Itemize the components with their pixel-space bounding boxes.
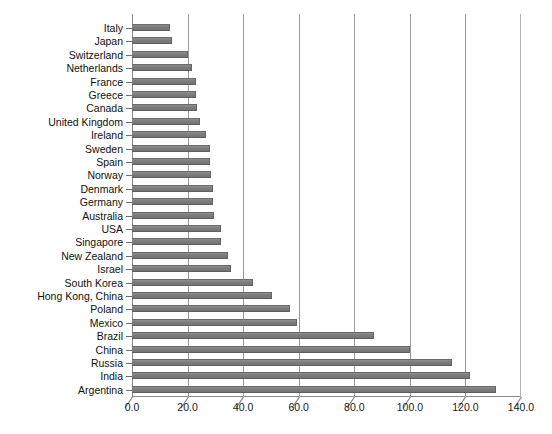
bar <box>132 346 410 353</box>
x-axis-label: 140.0 <box>491 401 551 413</box>
bar-row: Spain <box>0 156 552 169</box>
category-label: Japan <box>94 35 123 48</box>
bar-chart: ItalyJapanSwitzerlandNetherlandsFranceGr… <box>0 0 552 434</box>
x-axis-label: 20.0 <box>158 401 218 413</box>
bar-row: Japan <box>0 35 552 48</box>
bar-row: Russia <box>0 357 552 370</box>
category-label: France <box>90 76 123 89</box>
bar-row: Italy <box>0 22 552 35</box>
bar <box>132 158 210 165</box>
bar-row: Greece <box>0 89 552 102</box>
category-label: Sweden <box>85 143 123 156</box>
bar-row: Israel <box>0 263 552 276</box>
category-label: United Kingdom <box>48 116 123 129</box>
category-label: Poland <box>90 303 123 316</box>
category-label: Norway <box>87 169 123 182</box>
bar <box>132 104 197 111</box>
bar <box>132 305 290 312</box>
bar-row: China <box>0 344 552 357</box>
bar-row: Germany <box>0 196 552 209</box>
bar <box>132 372 470 379</box>
category-label: New Zealand <box>61 250 123 263</box>
x-axis-label: 100.0 <box>380 401 440 413</box>
x-axis-label: 40.0 <box>213 401 273 413</box>
bar-row: Argentina <box>0 384 552 397</box>
bar-row: New Zealand <box>0 250 552 263</box>
category-label: China <box>96 344 123 357</box>
category-label: Canada <box>86 102 123 115</box>
bar-row: Sweden <box>0 143 552 156</box>
category-label: Germany <box>80 196 123 209</box>
category-label: Spain <box>96 156 123 169</box>
bar-row: Switzerland <box>0 49 552 62</box>
bar <box>132 91 196 98</box>
bar <box>132 185 213 192</box>
bar-row: Australia <box>0 210 552 223</box>
bar <box>132 319 297 326</box>
bar <box>132 24 170 31</box>
bar-row: Poland <box>0 303 552 316</box>
bar-row: United Kingdom <box>0 116 552 129</box>
x-axis-label: 60.0 <box>269 401 329 413</box>
category-label: Brazil <box>97 330 123 343</box>
bar-row: South Korea <box>0 277 552 290</box>
bar-row: France <box>0 76 552 89</box>
category-label: Switzerland <box>69 49 123 62</box>
category-label: Greece <box>89 89 123 102</box>
bar <box>132 51 188 58</box>
bar <box>132 64 192 71</box>
bar <box>132 198 213 205</box>
category-label: South Korea <box>65 277 123 290</box>
bar <box>132 386 496 393</box>
bar <box>132 292 272 299</box>
bar-row: USA <box>0 223 552 236</box>
category-label: Australia <box>82 210 123 223</box>
x-axis-label: 0.0 <box>102 401 162 413</box>
bar <box>132 131 206 138</box>
bar <box>132 37 172 44</box>
bar <box>132 332 374 339</box>
bar-row: Hong Kong, China <box>0 290 552 303</box>
bar-row: India <box>0 370 552 383</box>
category-label: Israel <box>97 263 123 276</box>
bar-row: Mexico <box>0 317 552 330</box>
x-axis-label: 120.0 <box>435 401 495 413</box>
bar-row: Ireland <box>0 129 552 142</box>
category-label: Italy <box>104 22 123 35</box>
x-axis-label: 80.0 <box>324 401 384 413</box>
bar <box>132 265 231 272</box>
bar-row: Norway <box>0 169 552 182</box>
bar-row: Canada <box>0 102 552 115</box>
category-label: Argentina <box>78 384 123 397</box>
bar <box>132 171 211 178</box>
bar <box>132 118 200 125</box>
bar-row: Denmark <box>0 183 552 196</box>
bar <box>132 238 221 245</box>
bar-row: Netherlands <box>0 62 552 75</box>
category-label: Mexico <box>90 317 123 330</box>
category-label: Ireland <box>91 129 123 142</box>
bar-row: Singapore <box>0 236 552 249</box>
bar-row: Brazil <box>0 330 552 343</box>
bar <box>132 78 196 85</box>
bar <box>132 145 210 152</box>
bar <box>132 212 214 219</box>
category-label: USA <box>101 223 123 236</box>
bar <box>132 279 253 286</box>
category-label: Denmark <box>80 183 123 196</box>
bar <box>132 225 221 232</box>
category-label: Netherlands <box>66 62 123 75</box>
category-label: India <box>100 370 123 383</box>
category-label: Hong Kong, China <box>37 290 123 303</box>
category-label: Russia <box>91 357 123 370</box>
bar <box>132 359 452 366</box>
bar <box>132 252 228 259</box>
category-label: Singapore <box>75 236 123 249</box>
